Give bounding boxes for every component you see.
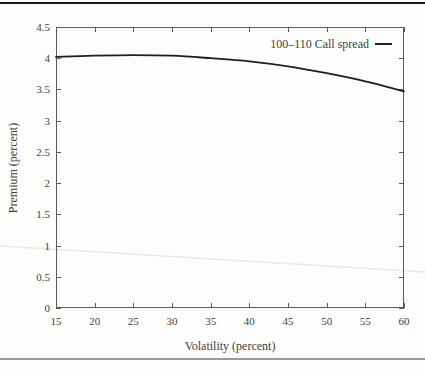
x-tick-label: 35 xyxy=(196,315,226,328)
y-tick-label: 1.5 xyxy=(0,207,50,221)
x-tick-label: 30 xyxy=(157,315,187,328)
x-tick-label: 45 xyxy=(273,315,303,328)
y-tick-label: 3.5 xyxy=(0,82,50,96)
y-tick-label: 1 xyxy=(0,239,50,253)
axis-box xyxy=(57,28,404,308)
y-tick-label: 2.5 xyxy=(0,145,50,159)
page: Premium (percent) Volatility (percent) 1… xyxy=(0,0,425,372)
y-tick-label: 4.5 xyxy=(0,20,50,34)
y-tick-label: 4 xyxy=(0,51,50,65)
x-tick-label: 25 xyxy=(118,315,148,328)
x-tick-label: 20 xyxy=(80,315,110,328)
legend-label: 100–110 Call spread xyxy=(270,37,369,51)
call-spread-premium-chart: Premium (percent) Volatility (percent) 1… xyxy=(0,0,425,372)
x-tick-label: 60 xyxy=(389,315,419,328)
x-tick-label: 15 xyxy=(41,315,71,328)
y-tick-label: 0 xyxy=(0,301,50,315)
y-tick-label: 3 xyxy=(0,114,50,128)
x-tick-label: 50 xyxy=(312,315,342,328)
scan-crease-line xyxy=(0,246,425,272)
x-tick-label: 55 xyxy=(350,315,380,328)
y-tick-label: 0.5 xyxy=(0,270,50,284)
y-axis-title: Premium (percent) xyxy=(6,123,20,213)
y-tick-label: 2 xyxy=(0,176,50,190)
series-curve xyxy=(56,55,404,91)
legend-entry: 100–110 Call spread xyxy=(270,37,369,51)
x-axis-title: Volatility (percent) xyxy=(56,339,404,353)
x-tick-label: 40 xyxy=(234,315,264,328)
